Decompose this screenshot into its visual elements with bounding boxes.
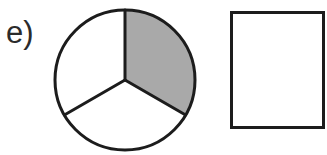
worksheet-canvas: e) [0, 0, 327, 155]
empty-square [232, 13, 324, 128]
square-svg [226, 7, 327, 131]
pie-figure [52, 6, 200, 154]
square-figure [226, 7, 327, 131]
item-label: e) [6, 14, 34, 52]
pie-svg [52, 6, 200, 154]
